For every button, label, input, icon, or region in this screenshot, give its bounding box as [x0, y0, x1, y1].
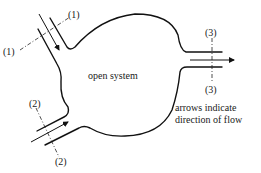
section-2-line	[36, 108, 59, 157]
section-3-label-bottom: (3)	[205, 84, 217, 96]
section-2-label-bottom: (2)	[55, 156, 67, 168]
section-1-line	[20, 17, 70, 50]
note-line-1: arrows indicate	[175, 102, 237, 113]
system-label: open system	[88, 70, 138, 81]
open-system-diagram: (1) (1) (2) (2) (3) (3) open system arro…	[0, 0, 261, 173]
section-1-label-top: (1)	[68, 9, 80, 21]
section-3-label-top: (3)	[205, 27, 217, 39]
note-line-2: direction of flow	[175, 114, 243, 125]
inlet-1-arrow	[39, 14, 59, 50]
section-1-label-bottom: (1)	[3, 46, 15, 58]
section-2-label-top: (2)	[29, 98, 41, 110]
